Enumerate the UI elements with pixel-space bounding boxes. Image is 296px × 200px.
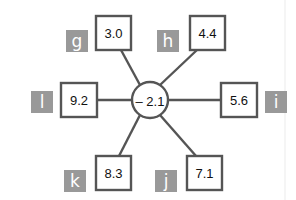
tag-k-label: k — [70, 171, 80, 191]
node-g: g 3.0 — [66, 16, 131, 52]
tag-g-label: g — [72, 31, 83, 51]
value-l: 9.2 — [70, 93, 88, 108]
node-l: l 9.2 — [31, 83, 97, 117]
star-diagram: – 2.1 g 3.0 h 4.4 l 9.2 5.6 i k 8.3 j — [0, 0, 296, 200]
tag-i-label: i — [274, 92, 279, 112]
node-h: h 4.4 — [157, 16, 225, 52]
tag-h-label: h — [163, 31, 174, 51]
spoke-j — [160, 115, 196, 156]
value-i: 5.6 — [230, 93, 248, 108]
spoke-k — [119, 115, 140, 156]
node-j: j 7.1 — [155, 156, 222, 192]
spoke-g — [121, 50, 140, 85]
value-g: 3.0 — [104, 26, 122, 41]
tag-l-label: l — [40, 92, 45, 112]
value-h: 4.4 — [198, 26, 216, 41]
value-k: 8.3 — [104, 166, 122, 181]
center-node: – 2.1 — [132, 82, 168, 118]
node-k: k 8.3 — [64, 156, 131, 192]
node-i: 5.6 i — [221, 83, 287, 117]
tag-j-label: j — [163, 171, 169, 191]
value-j: 7.1 — [195, 166, 213, 181]
spoke-h — [160, 50, 197, 85]
center-value: – 2.1 — [136, 94, 165, 109]
